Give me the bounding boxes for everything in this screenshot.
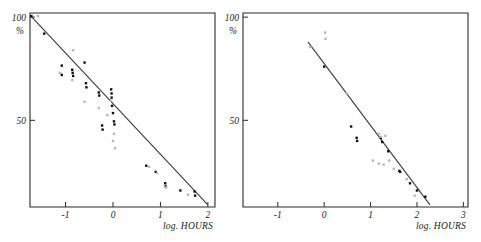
- y-tick-label: 100: [12, 13, 27, 23]
- data-point: [30, 15, 32, 17]
- data-point: [355, 137, 357, 139]
- data-point: [416, 189, 418, 191]
- data-point: [378, 162, 380, 164]
- data-point: [112, 112, 114, 114]
- data-point: [59, 72, 61, 74]
- data-point: [98, 107, 100, 109]
- x-tick-label: 3: [460, 210, 466, 220]
- data-point: [388, 159, 390, 161]
- data-point: [381, 141, 383, 143]
- data-point: [110, 96, 112, 98]
- data-point: [101, 128, 103, 130]
- x-tick-label: -1: [274, 210, 282, 220]
- data-point: [114, 147, 116, 149]
- data-point: [193, 190, 195, 192]
- x-tick-label: -1: [62, 210, 70, 220]
- data-point: [112, 140, 114, 142]
- data-point: [72, 75, 74, 77]
- right-panel: -1012310050%log. HOURS: [225, 13, 468, 231]
- plot-frame: [243, 13, 468, 207]
- data-point: [164, 182, 166, 184]
- data-point: [61, 74, 63, 76]
- trend-line: [30, 15, 208, 205]
- data-point: [83, 101, 85, 103]
- trend-line: [308, 42, 430, 205]
- y-axis-unit-label: %: [16, 26, 24, 36]
- x-tick-label: 0: [322, 210, 327, 220]
- data-point: [113, 120, 115, 122]
- data-point: [309, 46, 311, 48]
- data-point: [350, 125, 352, 127]
- data-point: [323, 65, 325, 67]
- data-point: [399, 171, 401, 173]
- data-point: [85, 82, 87, 84]
- data-point: [187, 193, 189, 195]
- data-point: [71, 79, 73, 81]
- data-point: [424, 195, 426, 197]
- x-tick-label: 0: [111, 210, 116, 220]
- data-point: [43, 32, 45, 34]
- data-point: [72, 49, 74, 51]
- data-point: [113, 133, 115, 135]
- data-point: [98, 94, 100, 96]
- data-point: [98, 91, 100, 93]
- data-point: [110, 100, 112, 102]
- data-point: [413, 194, 415, 196]
- data-point: [101, 124, 103, 126]
- data-point: [71, 69, 73, 71]
- left-panel: -101210050%log. HOURS: [12, 13, 215, 231]
- data-point: [61, 64, 63, 66]
- data-point: [409, 182, 411, 184]
- data-point: [179, 189, 181, 191]
- data-point: [145, 165, 147, 167]
- data-point: [387, 150, 389, 152]
- data-point: [37, 15, 39, 17]
- y-tick-label: 100: [225, 13, 240, 23]
- data-point: [345, 92, 347, 94]
- data-point: [382, 163, 384, 165]
- data-point: [324, 31, 326, 33]
- data-point: [85, 86, 87, 88]
- data-point: [83, 61, 85, 63]
- y-tick-label: 50: [230, 116, 240, 126]
- data-point: [393, 168, 395, 170]
- x-tick-label: 2: [206, 210, 211, 220]
- x-axis-title: log. HOURS: [416, 221, 466, 231]
- data-point: [111, 105, 113, 107]
- data-point: [110, 92, 112, 94]
- plot-frame: [30, 13, 215, 207]
- data-point: [106, 114, 108, 116]
- data-point: [380, 136, 382, 138]
- data-point: [165, 186, 167, 188]
- two-panel-scatter-figure: -101210050%log. HOURS-1012310050%log. HO…: [0, 0, 481, 242]
- data-point: [148, 166, 150, 168]
- data-point: [113, 123, 115, 125]
- x-tick-label: 1: [368, 210, 373, 220]
- data-point: [372, 159, 374, 161]
- x-tick-label: 2: [415, 210, 420, 220]
- data-point: [324, 38, 326, 40]
- data-point: [356, 140, 358, 142]
- x-axis-title: log. HOURS: [163, 221, 213, 231]
- data-point: [71, 72, 73, 74]
- y-tick-label: 50: [17, 116, 27, 126]
- data-point: [194, 194, 196, 196]
- data-point: [110, 88, 112, 90]
- figure-container: -101210050%log. HOURS-1012310050%log. HO…: [0, 0, 481, 242]
- y-axis-unit-label: %: [229, 26, 237, 36]
- data-point: [384, 135, 386, 137]
- data-point: [406, 178, 408, 180]
- data-point: [378, 133, 380, 135]
- x-tick-label: 1: [158, 210, 163, 220]
- data-point: [156, 172, 158, 174]
